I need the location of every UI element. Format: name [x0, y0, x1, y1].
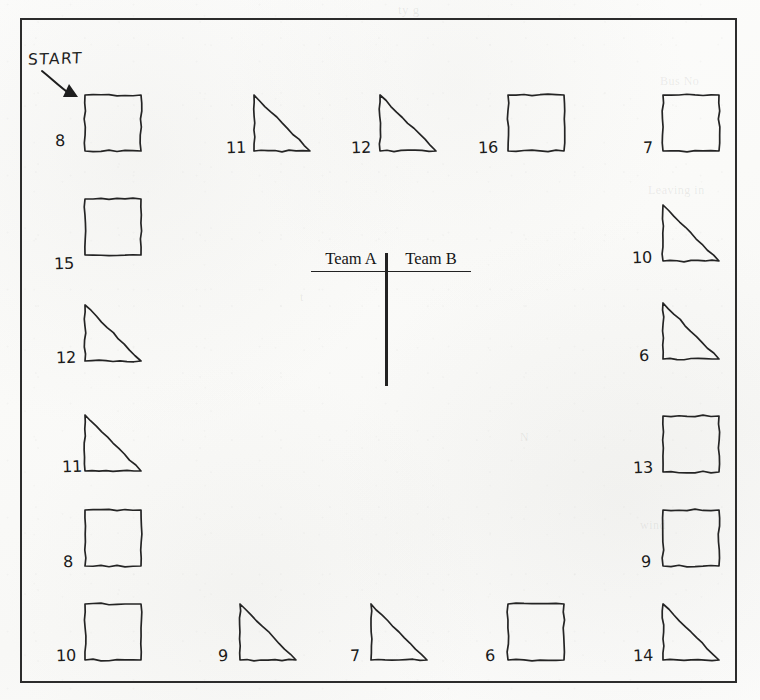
- board-cell-triangle-icon: [369, 602, 429, 662]
- board-cell-number: 8: [63, 554, 74, 570]
- board-cell-number: 12: [56, 350, 77, 367]
- board-cell-square-icon: [83, 93, 143, 153]
- board-cell-number: 11: [226, 140, 247, 157]
- board-cell-number: 9: [641, 554, 652, 570]
- board-cell-number: 10: [632, 250, 653, 267]
- board-cell-number: 14: [633, 648, 654, 665]
- board-cell-triangle-icon: [661, 602, 721, 662]
- team-b-header: Team B: [391, 250, 471, 271]
- board-cell-square-icon: [661, 414, 721, 474]
- board-cell-number: 15: [54, 256, 75, 273]
- board-cell-square-icon: [83, 602, 143, 662]
- board-cell-triangle-icon: [661, 203, 721, 263]
- scoreboard-headers: Team A Team B: [311, 250, 471, 272]
- board-cell-number: 7: [350, 648, 361, 664]
- worksheet-paper: ty gBus NoLeaving intNwind START 8111216…: [0, 0, 760, 700]
- board-cell-number: 8: [55, 133, 66, 149]
- board-cell-number: 12: [351, 140, 372, 157]
- board-cell-triangle-icon: [238, 602, 298, 662]
- board-cell-triangle-icon: [83, 303, 143, 363]
- board-cell-number: 16: [478, 140, 499, 157]
- board-cell-triangle-icon: [661, 301, 721, 361]
- board-cell-number: 7: [643, 140, 654, 156]
- board-cell-triangle-icon: [83, 413, 143, 473]
- board-cell-square-icon: [506, 602, 566, 662]
- board-cell-triangle-icon: [252, 93, 312, 153]
- board-cell-number: 9: [218, 648, 229, 664]
- board-cell-square-icon: [661, 508, 721, 568]
- board-cell-number: 11: [62, 459, 83, 476]
- board-cell-square-icon: [83, 197, 143, 257]
- board-cell-square-icon: [661, 93, 721, 153]
- board-cell-number: 6: [485, 648, 496, 664]
- scoreboard: Team A Team B: [311, 250, 471, 390]
- board-cell-number: 6: [639, 348, 650, 364]
- scoreboard-divider: [385, 253, 388, 386]
- bleed-through-text: ty g: [398, 2, 420, 18]
- board-cell-number: 13: [633, 460, 654, 477]
- board-cell-number: 10: [56, 648, 77, 665]
- board-cell-square-icon: [506, 93, 566, 153]
- board-cell-triangle-icon: [378, 93, 438, 153]
- team-a-header: Team A: [311, 250, 391, 271]
- board-cell-square-icon: [83, 508, 143, 568]
